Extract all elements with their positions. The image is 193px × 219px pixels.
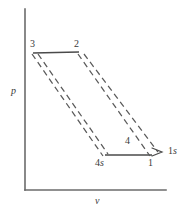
- state-label-1: 1: [148, 158, 153, 168]
- process-line-2-to-1s-inner: [84, 54, 158, 152]
- state-label-4: 4: [125, 136, 130, 146]
- process-line-3-to-2: [33, 52, 79, 53]
- pressure-axis-label: p: [11, 86, 16, 96]
- figure-container: p v 3 2 4 4s 1 1s: [0, 0, 193, 219]
- state-label-4s: 4s: [95, 158, 104, 168]
- volume-axis-label: v: [95, 196, 99, 206]
- process-line-3-to-4s-inner: [38, 54, 108, 154]
- process-line-2-to-1-outer: [78, 54, 150, 156]
- state-label-1s: 1s: [168, 146, 177, 156]
- pv-diagram-svg: [0, 0, 193, 219]
- state-label-1s-subscript: s: [173, 145, 177, 156]
- process-line-3-to-4s-outer: [32, 54, 103, 156]
- state-label-4s-subscript: s: [100, 157, 104, 168]
- state-label-2: 2: [74, 39, 79, 49]
- arrowhead-1s: [152, 148, 162, 156]
- state-label-3: 3: [30, 39, 35, 49]
